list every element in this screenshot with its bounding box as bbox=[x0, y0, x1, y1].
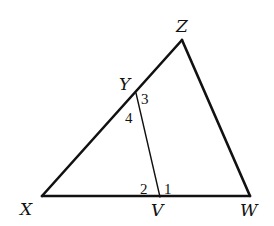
segment-zw bbox=[182, 40, 250, 196]
vertex-label-x: X bbox=[18, 199, 33, 219]
angle-label-4: 4 bbox=[125, 110, 133, 126]
point-label-y: Y bbox=[119, 74, 132, 94]
angle-label-1: 1 bbox=[164, 181, 172, 197]
angle-label-3: 3 bbox=[141, 91, 149, 107]
segment-xz bbox=[42, 40, 182, 196]
vertex-label-w: W bbox=[240, 200, 259, 220]
geometry-diagram: Z Y X V W 3 4 2 1 bbox=[0, 0, 274, 226]
point-label-v: V bbox=[151, 200, 165, 220]
triangle-figure: Z Y X V W 3 4 2 1 bbox=[0, 0, 274, 226]
angle-label-2: 2 bbox=[140, 181, 148, 197]
vertex-label-z: Z bbox=[175, 16, 189, 36]
